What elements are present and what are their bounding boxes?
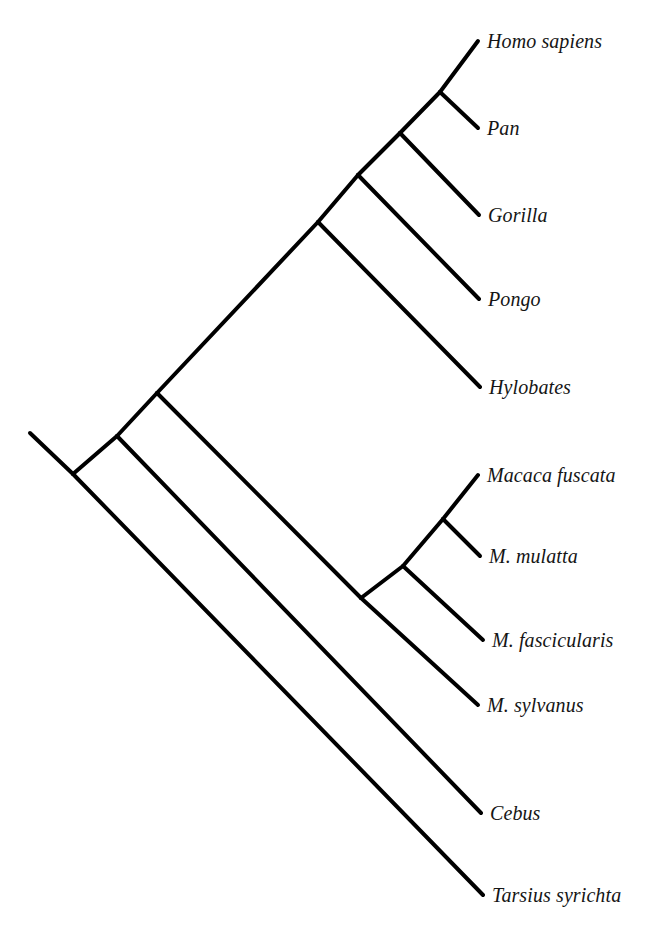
tree-branch: [117, 393, 157, 436]
tree-branch: [30, 433, 73, 474]
tree-branch: [157, 393, 361, 598]
tree-branch: [443, 519, 480, 556]
tree-branch: [400, 133, 479, 215]
tree-branch: [403, 566, 483, 640]
tree-branch: [157, 222, 318, 393]
tree-branch: [73, 436, 117, 474]
taxon-label-pan: Pan: [487, 118, 520, 138]
taxon-label-pongo: Pongo: [488, 289, 541, 309]
tree-branch: [443, 475, 478, 519]
tree-branch: [400, 92, 440, 133]
tree-branch: [440, 92, 478, 128]
taxon-label-gorilla: Gorilla: [488, 205, 548, 225]
tree-branch: [440, 41, 478, 92]
taxon-label-m-fascicularis: M. fascicularis: [492, 630, 614, 650]
tree-branch: [358, 133, 400, 175]
tree-branch: [318, 175, 358, 222]
tree-branch: [318, 222, 480, 387]
taxon-label-m-mulatta: M. mulatta: [489, 546, 578, 566]
taxon-label-hylobates: Hylobates: [489, 377, 571, 397]
taxon-label-macaca-fuscata: Macaca fuscata: [487, 465, 616, 485]
tree-branch: [361, 598, 478, 705]
tree-branch: [117, 436, 481, 813]
branch-group: [30, 41, 483, 895]
taxon-label-tarsius-syrichta: Tarsius syrichta: [492, 885, 621, 905]
taxon-label-cebus: Cebus: [490, 803, 541, 823]
taxon-label-m-sylvanus: M. sylvanus: [487, 695, 584, 715]
tree-branch: [73, 474, 483, 895]
tree-branch: [403, 519, 443, 566]
taxon-label-homo-sapiens: Homo sapiens: [487, 31, 602, 51]
phylogenetic-tree-figure: Homo sapiensPanGorillaPongoHylobatesMaca…: [0, 0, 659, 933]
tree-branch: [361, 566, 403, 598]
